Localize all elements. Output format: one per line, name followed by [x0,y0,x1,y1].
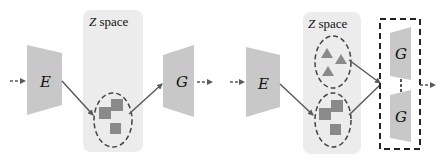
right-generator-top-label: G [395,45,407,63]
latent-square [331,100,343,112]
latent-square [99,107,111,119]
left-encoder-label: E [39,73,51,91]
right-panel: Z space E G G [230,12,435,154]
right-generator-bottom-label: G [395,108,407,126]
left-generator-label: G [176,73,188,91]
latent-square [319,108,331,120]
left-panel: Z space E G [10,10,212,152]
right-encoder-label: E [257,75,269,93]
latent-square [110,123,121,134]
latent-square [111,99,123,111]
right-zspace-label: Z space [308,16,348,31]
left-zspace-label: Z space [89,14,129,29]
latent-square [330,124,341,135]
diagram-canvas: Z space E G Z space E [0,0,444,162]
